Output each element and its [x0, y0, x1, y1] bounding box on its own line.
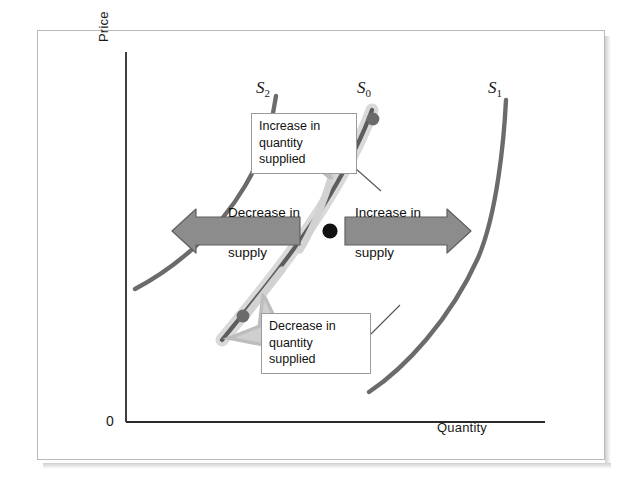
curve-label-s0-base: S [357, 78, 366, 97]
decrease-callout-leader [371, 305, 400, 334]
decrease-quantity-supplied-arrow [246, 270, 282, 316]
decrease-in-supply-label-line1: Decrease in [228, 205, 300, 220]
increase-callout-leader [355, 168, 381, 191]
supply-curve-plot [0, 0, 643, 493]
callout-decrease-line-2: quantity [269, 335, 363, 352]
origin-label: 0 [106, 413, 114, 429]
equilibrium-dot [322, 223, 337, 238]
callout-decrease-line-3: supplied [269, 351, 363, 368]
curve-label-s1-sub: 1 [497, 87, 503, 99]
curve-label-s0: S0 [357, 78, 371, 99]
curve-label-s2-base: S [256, 78, 265, 97]
callout-increase-line-3: supplied [259, 151, 349, 168]
callout-decrease-quantity-supplied: Decrease in quantity supplied [261, 313, 371, 374]
increase-in-supply-label-line2: supply [355, 245, 394, 260]
higher-quantity-supplied-dot [367, 113, 380, 126]
curve-label-s2: S2 [256, 78, 270, 99]
curve-label-s0-sub: 0 [366, 87, 372, 99]
curve-label-s2-sub: 2 [265, 87, 271, 99]
callout-decrease-line-1: Decrease in [269, 318, 363, 335]
decrease-in-supply-label-line2: supply [228, 245, 267, 260]
lower-quantity-supplied-dot [237, 310, 250, 323]
callout-increase-quantity-supplied: Increase in quantity supplied [251, 113, 357, 174]
increase-in-supply-label-line1: Increase in [355, 205, 421, 220]
y-axis-label: Price [96, 11, 111, 42]
callout-increase-line-1: Increase in [259, 118, 349, 135]
x-axis-label: Quantity [437, 420, 487, 435]
curve-label-s1: S1 [488, 78, 502, 99]
figure-page: Price Quantity 0 S2 S0 S1 Increase in qu… [0, 0, 643, 493]
callout-increase-line-2: quantity [259, 135, 349, 152]
curve-label-s1-base: S [488, 78, 497, 97]
